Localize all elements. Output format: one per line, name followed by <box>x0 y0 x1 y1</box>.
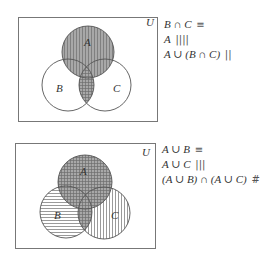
set-label-c: C <box>111 209 118 221</box>
horizontal-lines-icon: ≡ <box>196 17 204 32</box>
legend-expression: A ∪ (B ∩ C) <box>164 48 220 60</box>
cross-hatch-icon: # <box>251 172 259 187</box>
set-label-a: A <box>80 165 87 177</box>
universe-label: U <box>146 16 154 28</box>
vertical-lines-icon: |||| <box>175 32 188 47</box>
legend-expression: A ∪ C <box>162 158 191 170</box>
legend-item: A ∪ C ||| <box>162 157 260 172</box>
legend-expression: A ∪ B <box>162 143 190 155</box>
legend-item: A ∪ B ≡ <box>162 142 260 157</box>
vertical-lines-icon: ||| <box>195 157 205 172</box>
set-label-c: C <box>113 82 120 94</box>
legend-item: B ∩ C ≡ <box>164 17 232 32</box>
legend-top: B ∩ C ≡ A |||| A ∪ (B ∩ C) || <box>164 17 232 62</box>
set-label-b: B <box>56 82 63 94</box>
legend-item: (A ∪ B) ∩ (A ∪ C) # <box>162 172 260 187</box>
set-label-b: B <box>54 209 61 221</box>
legend-item: A |||| <box>164 32 232 47</box>
legend-item: A ∪ (B ∩ C) || <box>164 47 232 62</box>
vertical-lines-icon: || <box>225 47 232 62</box>
venn-diagram-top <box>19 18 158 122</box>
legend-expression: B ∩ C <box>164 18 192 30</box>
legend-expression: A <box>164 33 171 45</box>
set-label-a: A <box>84 36 91 48</box>
horizontal-lines-icon: ≡ <box>195 142 203 157</box>
venn-diagram-bottom <box>16 144 156 249</box>
venn-diagrams-canvas <box>0 0 277 258</box>
legend-bottom: A ∪ B ≡ A ∪ C ||| (A ∪ B) ∩ (A ∪ C) # <box>162 142 260 187</box>
legend-expression: (A ∪ B) ∩ (A ∪ C) <box>162 173 247 185</box>
universe-label: U <box>142 146 150 158</box>
